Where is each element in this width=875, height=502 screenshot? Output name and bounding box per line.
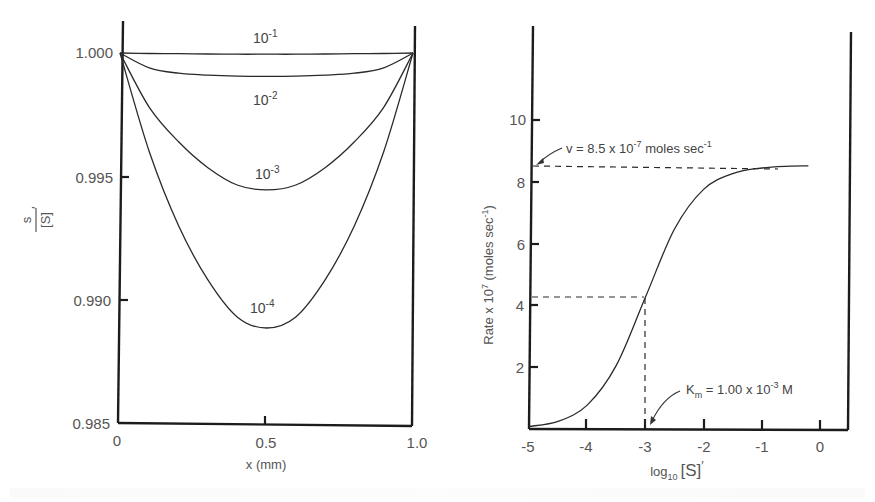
right-chart-y-axis <box>529 26 533 429</box>
curve-label-1e-4: 10-4 <box>250 298 275 316</box>
right-y-tick-label: 8 <box>517 174 525 191</box>
curve-label-1e-2: 10-2 <box>253 90 278 108</box>
left-y-axis-label: s [S] ′ <box>19 206 53 232</box>
left-y-label-numerator: s <box>19 216 34 223</box>
right-x-tick-label: -3 <box>638 438 651 455</box>
left-y-tick-label: 0.985 <box>72 415 110 432</box>
left-y-tick-label: 0.995 <box>75 169 113 186</box>
left-y-tick-label: 1.000 <box>75 44 113 61</box>
curve-10e-1 <box>120 53 413 54</box>
km-annotation: Km = 1.00 x 10-3 M <box>686 380 793 400</box>
right-y-tick-label: 10 <box>509 111 526 128</box>
left-x-tick-label: 0 <box>113 432 121 449</box>
vmax-annotation: v = 8.5 x 10-7 moles sec-1 <box>566 139 712 156</box>
curve-label-1e-3: 10-3 <box>255 164 280 182</box>
vmax-arrowhead-icon <box>536 158 544 165</box>
right-y-tick-label: 2 <box>516 359 524 376</box>
left-x-axis-label: x (mm) <box>246 457 286 472</box>
right-y-tick-label: 6 <box>517 236 525 253</box>
right-x-tick-label: 0 <box>816 438 824 455</box>
right-chart-x-axis <box>529 429 848 430</box>
right-x-tick-label: -2 <box>697 438 710 455</box>
left-x-tick-label: 1.0 <box>407 434 428 451</box>
left-x-tick-label: 0.5 <box>256 434 277 451</box>
km-arrow-icon <box>652 391 680 421</box>
left-y-label-prime: ′ <box>29 206 44 209</box>
right-chart-right-border <box>848 32 851 430</box>
left-y-label-denominator: [S] <box>38 212 53 228</box>
km-arrowhead-icon <box>650 416 656 425</box>
left-y-tick-label: 0.990 <box>73 292 111 309</box>
caption-bleed-through <box>10 488 865 498</box>
right-y-tick-label: 4 <box>516 297 524 314</box>
left-chart: 1.000 0.995 0.990 0.985 0 0.5 1.0 x (mm)… <box>19 21 427 472</box>
left-chart-y-axis <box>118 21 123 423</box>
right-x-tick-label: -4 <box>579 438 592 455</box>
right-x-tick-label: -1 <box>755 438 768 455</box>
vmax-dashed-line <box>533 166 778 169</box>
curve-label-1e-1: 10-1 <box>253 28 278 46</box>
figure-canvas: 1.000 0.995 0.990 0.985 0 0.5 1.0 x (mm)… <box>0 0 875 502</box>
right-y-axis-label: Rate x 107 (moles sec-1) <box>480 205 496 345</box>
right-x-tick-label: -5 <box>521 438 534 455</box>
curve-10e-2 <box>120 53 413 76</box>
right-x-axis-label: log10[S]′ <box>650 458 704 482</box>
right-chart: 10 8 6 4 2 -5 -4 -3 -2 -1 0 log10[S]′ Ra… <box>480 26 851 482</box>
left-chart-right-border <box>412 26 415 426</box>
